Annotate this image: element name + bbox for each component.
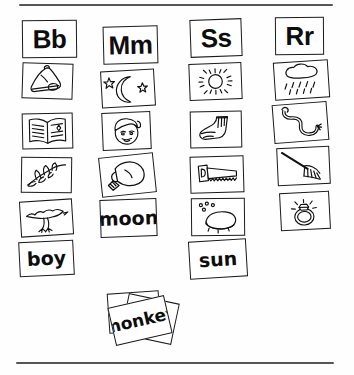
word-card-label: moon <box>99 207 157 228</box>
rain-cloud-icon <box>274 60 329 99</box>
man-face-icon <box>102 112 150 150</box>
picture-card-moon[interactable] <box>100 69 156 109</box>
ring-icon <box>280 192 330 230</box>
top-divider <box>19 4 333 6</box>
letter-card-label: Bb <box>33 26 67 52</box>
picture-card-branch[interactable] <box>21 157 72 194</box>
rake-icon <box>277 147 330 185</box>
bell-icon <box>22 63 72 99</box>
picture-card-soap[interactable] <box>191 198 245 237</box>
word-card-sun[interactable]: sun <box>188 238 248 279</box>
picture-card-bird[interactable] <box>19 198 74 237</box>
soap-icon <box>192 199 244 236</box>
picture-card-saw[interactable] <box>189 155 244 193</box>
sock-icon <box>191 112 242 148</box>
branch-icon <box>22 158 71 193</box>
mitten-icon <box>99 153 156 196</box>
picture-card-mitten[interactable] <box>98 152 157 198</box>
word-card-label: monkey <box>107 304 172 337</box>
picture-card-rattlesnake[interactable] <box>272 101 330 144</box>
bird-icon <box>20 199 73 236</box>
letter-card-ss[interactable]: Ss <box>189 18 242 58</box>
sun-icon <box>189 63 241 100</box>
word-card-label: sun <box>198 248 237 269</box>
picture-card-sun[interactable] <box>188 62 242 101</box>
word-card-label: boy <box>27 248 67 269</box>
letter-card-label: Ss <box>200 24 232 51</box>
picture-card-sock[interactable] <box>190 111 243 149</box>
monkey-card-stack[interactable]: monkey <box>104 292 190 352</box>
letter-card-bb[interactable]: Bb <box>22 20 77 59</box>
worksheet-page: Bb <box>0 0 354 375</box>
letter-card-label: Mm <box>108 31 152 58</box>
saw-icon <box>191 156 244 192</box>
rattlesnake-icon <box>273 102 329 143</box>
word-card-moon[interactable]: moon <box>99 198 157 238</box>
letter-card-mm[interactable]: Mm <box>103 25 159 64</box>
picture-card-book[interactable] <box>22 112 74 149</box>
picture-card-man[interactable] <box>101 111 152 151</box>
book-icon <box>23 113 73 148</box>
picture-card-rake[interactable] <box>276 146 331 186</box>
letter-card-label: Rr <box>285 23 313 49</box>
word-card-boy[interactable]: boy <box>18 240 75 278</box>
bottom-divider <box>16 362 334 364</box>
letter-card-rr[interactable]: Rr <box>275 17 324 55</box>
moon-stars-icon <box>101 70 155 108</box>
picture-card-ring[interactable] <box>279 191 331 232</box>
picture-card-rain[interactable] <box>273 59 330 101</box>
picture-card-bell[interactable] <box>21 62 73 100</box>
